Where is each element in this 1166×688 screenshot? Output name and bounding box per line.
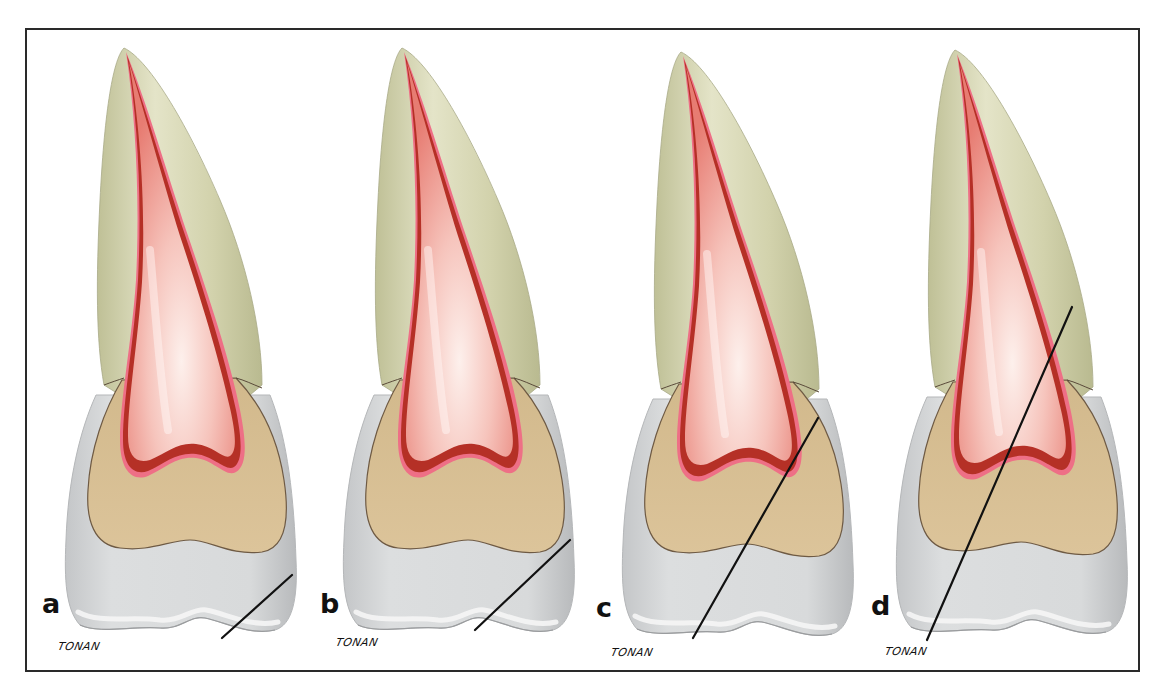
panel-label-b: b <box>320 590 339 617</box>
artist-signature-c: TONAN <box>610 647 654 658</box>
panel-label-a: a <box>42 590 60 617</box>
panel-label-c: c <box>596 594 612 621</box>
panel-a-tooth <box>65 48 296 631</box>
panel-c-tooth <box>622 52 853 635</box>
panel-b-tooth <box>343 48 574 631</box>
artist-signature-a: TONAN <box>57 641 101 652</box>
artist-signature-b: TONAN <box>335 637 379 648</box>
artist-signature-d: TONAN <box>884 646 928 657</box>
tooth-sections-figure <box>0 0 1166 688</box>
panel-d-tooth <box>896 50 1127 633</box>
panel-label-d: d <box>871 592 890 619</box>
